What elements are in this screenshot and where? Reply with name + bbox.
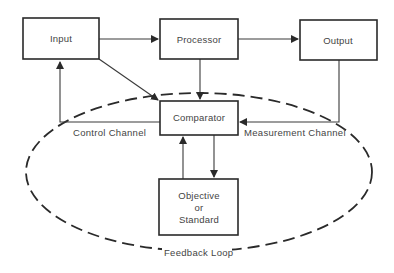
feedback-loop-diagram: Input Processor Output Comparator Object…: [0, 0, 394, 273]
input-node: Input: [23, 18, 99, 59]
arrow-control-channel: [60, 62, 160, 122]
objective-label-line1: Objective: [178, 190, 219, 201]
measurement-channel-label: Measurement Channel: [244, 127, 346, 138]
objective-label-line3: Standard: [179, 214, 219, 225]
objective-label-line2: or: [195, 202, 204, 213]
input-label: Input: [50, 33, 72, 44]
arrow-input-to-comparator: [99, 59, 158, 100]
control-channel-label: Control Channel: [73, 127, 146, 138]
comparator-node: Comparator: [160, 101, 238, 135]
arrow-measurement-channel: [240, 60, 339, 122]
comparator-label: Comparator: [173, 112, 225, 123]
processor-node: Processor: [160, 19, 238, 59]
objective-node: Objective or Standard: [159, 179, 238, 235]
processor-label: Processor: [177, 34, 222, 45]
output-node: Output: [300, 20, 377, 60]
feedback-loop-label: Feedback Loop: [164, 247, 233, 258]
output-label: Output: [323, 35, 353, 46]
